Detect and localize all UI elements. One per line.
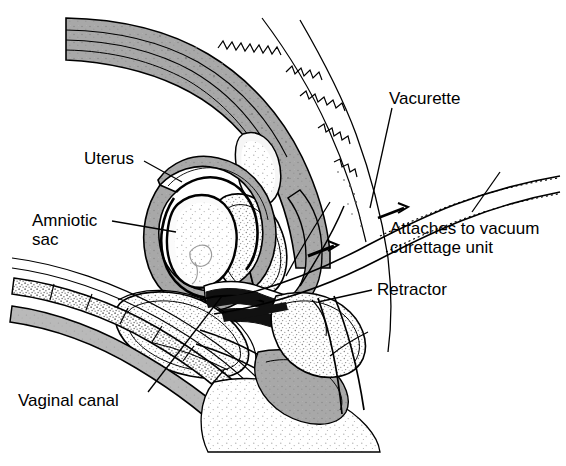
leader-attaches (472, 172, 500, 212)
label-retractor: Retractor (377, 280, 447, 299)
label-amniotic-sac-line2: sac (32, 230, 97, 249)
amniotic-sac (167, 195, 237, 288)
flow-arrow-icon (378, 203, 408, 218)
label-vacurette: Vacurette (389, 89, 461, 108)
label-uterus: Uterus (84, 149, 134, 168)
label-vaginal-canal: Vaginal canal (18, 391, 119, 410)
label-attaches-line1: Attaches to vacuum (390, 219, 539, 238)
label-attaches-to-vacuum: Attaches to vacuum curettage unit (390, 219, 539, 257)
label-attaches-line2: curettage unit (390, 238, 539, 257)
label-amniotic-sac-line1: Amniotic (32, 211, 97, 230)
label-amniotic-sac: Amniotic sac (32, 211, 97, 249)
medical-diagram-figure: Uterus Amniotic sac Vaginal canal Vacure… (0, 0, 566, 466)
leader-vacurette (370, 108, 392, 208)
leader-retractor (318, 290, 372, 302)
